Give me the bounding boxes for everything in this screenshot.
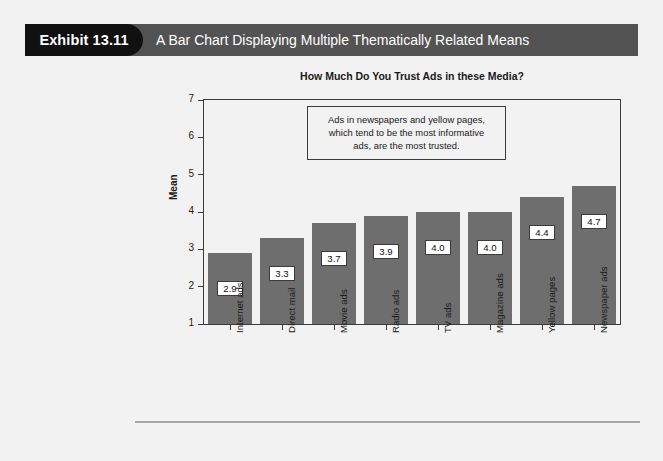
y-axis-tick-mark — [198, 324, 204, 325]
x-axis-tick-mark — [594, 324, 595, 330]
x-axis-category-label: TV ads — [442, 303, 453, 333]
y-axis-tick-mark — [198, 212, 204, 213]
x-axis-tick-mark — [386, 324, 387, 330]
x-axis-category-label: Movie ads — [338, 289, 349, 333]
bar: 4.0 — [416, 212, 460, 324]
y-axis-tick-label: 6 — [178, 130, 194, 141]
bar-value-label: 4.0 — [425, 240, 451, 255]
x-axis-tick-mark — [282, 324, 283, 330]
x-axis-category-label: Yellow pages — [546, 277, 557, 333]
x-axis-tick-mark — [490, 324, 491, 330]
chart-annotation-callout: Ads in newspapers and yellow pages, whic… — [307, 106, 506, 160]
bar: 2.9 — [208, 253, 252, 324]
exhibit-number-tab: Exhibit 13.11 — [25, 24, 143, 56]
x-axis-tick-mark — [542, 324, 543, 330]
y-axis-tick-mark — [198, 100, 204, 101]
bar: 3.9 — [364, 216, 408, 324]
bar: 3.7 — [312, 223, 356, 324]
exhibit-caption: A Bar Chart Displaying Multiple Thematic… — [156, 24, 529, 56]
bar: 4.7 — [572, 186, 616, 324]
bar: 4.4 — [520, 197, 564, 324]
annotation-line-1: Ads in newspapers and yellow pages, — [314, 113, 499, 126]
bar-value-label: 3.7 — [321, 251, 347, 266]
bar: 3.3 — [260, 238, 304, 324]
x-axis-category-label: Internet ads — [234, 282, 245, 333]
y-axis-tick-label: 3 — [178, 242, 194, 253]
x-axis-category-label: Magazine ads — [494, 273, 505, 333]
y-axis-tick-mark — [198, 286, 204, 287]
chart-title: How Much Do You Trust Ads in these Media… — [203, 70, 621, 82]
exhibit-header-bar: Exhibit 13.11 A Bar Chart Displaying Mul… — [25, 24, 638, 56]
y-axis-tick-mark — [198, 174, 204, 175]
exhibit-page: Exhibit 13.11 A Bar Chart Displaying Mul… — [0, 0, 663, 461]
y-axis-tick-label: 4 — [178, 205, 194, 216]
annotation-line-2: which tend to be the most informative — [314, 126, 499, 139]
bar-value-label: 4.7 — [581, 214, 607, 229]
bar-value-label: 3.9 — [373, 244, 399, 259]
y-axis-tick-mark — [198, 249, 204, 250]
bar-value-label: 3.3 — [269, 266, 295, 281]
exhibit-number-label: Exhibit 13.11 — [39, 32, 128, 48]
y-axis-tick-label: 2 — [178, 280, 194, 291]
x-axis-tick-mark — [230, 324, 231, 330]
footer-divider — [135, 421, 640, 423]
y-axis-tick-label: 5 — [178, 168, 194, 179]
x-axis-category-label: Direct mail — [286, 288, 297, 333]
x-axis-category-label: Newspaper ads — [598, 266, 609, 333]
plot-area: 1234567 Ads in newspapers and yellow pag… — [203, 99, 621, 325]
bar-value-label: 4.4 — [529, 225, 555, 240]
x-axis-tick-mark — [334, 324, 335, 330]
y-axis-tick-label: 7 — [178, 93, 194, 104]
y-axis-tick-mark — [198, 137, 204, 138]
x-axis-category-label: Radio ads — [390, 290, 401, 333]
annotation-line-3: ads, are the most trusted. — [314, 139, 499, 152]
bar: 4.0 — [468, 212, 512, 324]
x-axis-tick-mark — [438, 324, 439, 330]
y-axis-tick-label: 1 — [178, 317, 194, 328]
bar-value-label: 4.0 — [477, 240, 503, 255]
